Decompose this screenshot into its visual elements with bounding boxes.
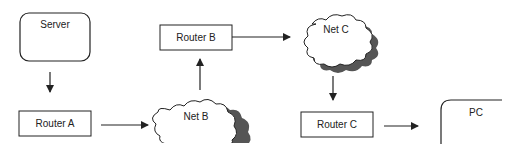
router-c-label: Router C — [317, 119, 357, 130]
net-b-cloud: Net B — [150, 99, 251, 156]
server-label: Server — [40, 19, 70, 30]
net-b-label: Net B — [183, 111, 208, 122]
router-a-label: Router A — [36, 118, 75, 129]
pc-node: PC — [441, 100, 502, 144]
network-diagram: Server Router A Net B Router B Net C Rou… — [0, 0, 520, 156]
net-c-cloud: Net C — [304, 15, 378, 73]
router-c-node: Router C — [301, 112, 373, 137]
net-c-label: Net C — [323, 24, 349, 35]
router-b-label: Router B — [176, 32, 216, 43]
router-a-node: Router A — [19, 111, 91, 136]
router-b-node: Router B — [160, 25, 232, 50]
server-node: Server — [20, 13, 90, 61]
pc-label: PC — [469, 107, 483, 118]
